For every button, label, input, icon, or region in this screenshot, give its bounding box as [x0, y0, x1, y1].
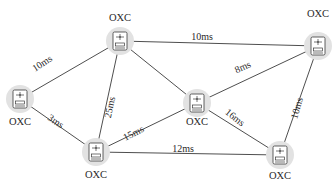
edge-label-latency: 25ms: [102, 95, 117, 119]
center-dot: [95, 147, 97, 149]
oxc-node[interactable]: OXC: [6, 85, 34, 127]
edges-layer: [20, 41, 318, 155]
edge-label-latency: 8ms: [233, 58, 253, 75]
edge-label-latency: 16ms: [223, 106, 247, 128]
optical-cross-connect-icon: [190, 94, 204, 112]
oxc-node[interactable]: OXC: [183, 89, 211, 127]
center-dot: [19, 94, 21, 96]
edge-label-latency: 10ms: [288, 96, 305, 120]
edge-labels-layer: 10ms3ms10ms25ms8ms15ms16ms12ms10ms: [30, 31, 305, 154]
node-label: OXC: [269, 170, 291, 181]
oxc-node[interactable]: OXC: [82, 138, 110, 180]
optical-cross-connect-icon: [113, 32, 127, 50]
optical-cross-connect-icon: [273, 146, 287, 164]
edge-label-latency: 10ms: [30, 52, 54, 73]
edge-label-latency: 12ms: [172, 143, 194, 154]
oxc-node[interactable]: OXC: [266, 141, 294, 181]
oxc-node[interactable]: OXC: [304, 8, 332, 60]
node-label: OXC: [9, 116, 31, 127]
network-diagram: 10ms3ms10ms25ms8ms15ms16ms12ms10ms OXCOX…: [0, 0, 336, 186]
node-label: OXC: [186, 116, 208, 127]
edge-n2-n4: [120, 41, 197, 103]
node-label: OXC: [307, 8, 329, 19]
oxc-node[interactable]: OXC: [106, 12, 134, 55]
edge-n4-n3: [197, 46, 318, 103]
edge-label-latency: 10ms: [191, 31, 213, 42]
edge-label-latency: 3ms: [46, 112, 66, 131]
center-dot: [119, 36, 121, 38]
optical-cross-connect-icon: [311, 37, 325, 55]
center-dot: [317, 41, 319, 43]
nodes-layer: OXCOXCOXCOXCOXCOXC: [6, 8, 332, 181]
node-label: OXC: [85, 169, 107, 180]
edge-label-latency: 15ms: [121, 123, 145, 143]
center-dot: [196, 98, 198, 100]
optical-cross-connect-icon: [89, 143, 103, 161]
center-dot: [279, 150, 281, 152]
edge-n4-n6: [197, 103, 280, 155]
optical-cross-connect-icon: [13, 90, 27, 108]
edge-n2-n3: [120, 41, 318, 46]
node-label: OXC: [109, 12, 131, 23]
